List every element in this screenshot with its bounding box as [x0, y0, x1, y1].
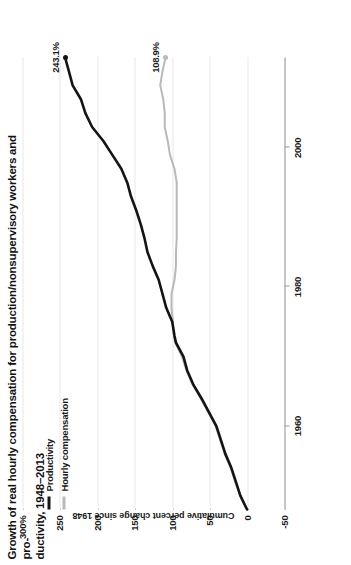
x-axis-tick [284, 146, 289, 147]
x-axis-tick [284, 425, 289, 426]
x-axis-tick-label: 2000 [291, 137, 302, 157]
y-axis-tick-label: 150 [129, 515, 140, 530]
chart-figure: Growth of real hourly compensation for p… [0, 0, 351, 565]
rotated-figure-wrapper: Growth of real hourly compensation for p… [0, 0, 351, 565]
y-axis-tick-label: 100 [166, 515, 177, 530]
y-axis-tick-label: 200 [91, 515, 102, 530]
y-axis-tick-label: 300% [17, 515, 28, 539]
series-endpoint-marker [163, 55, 168, 60]
data-label-1089: 108.9% [149, 42, 160, 72]
series-lines [22, 57, 284, 509]
y-axis-tick-label: -50 [279, 515, 290, 528]
plot-area: Cumulative percent change since 1948 300… [22, 57, 284, 509]
y-axis-tick-label: 250 [54, 515, 65, 530]
y-axis-tick-label: 50 [204, 515, 215, 525]
x-axis-tick-label: 1960 [291, 415, 302, 435]
x-axis-tick [284, 285, 289, 286]
y-axis-tick-label: 0 [241, 515, 252, 520]
data-label-2431: 243.1% [49, 42, 60, 72]
series-line-productivity [65, 57, 247, 509]
series-endpoint-marker [62, 55, 67, 60]
x-axis-tick-label: 1980 [291, 276, 302, 296]
series-line-hourly-compensation [160, 57, 247, 509]
